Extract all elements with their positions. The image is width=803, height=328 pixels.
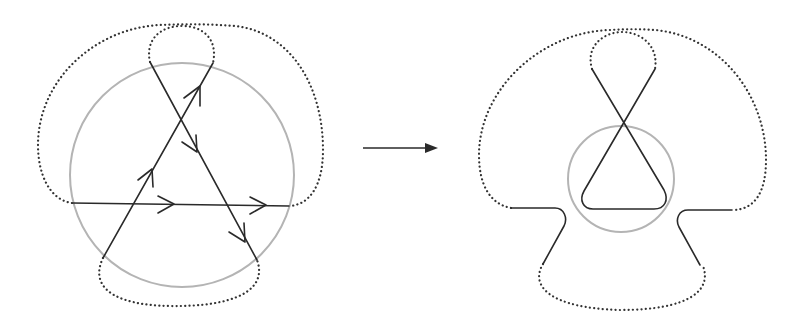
bottom-dotted-loop — [99, 258, 259, 306]
right-hook — [677, 210, 732, 265]
arrowhead-icon — [425, 143, 438, 153]
boundary-circle — [70, 63, 294, 287]
left-panel — [38, 24, 323, 306]
outer-dotted-loop — [38, 24, 323, 206]
top-dotted-loop — [149, 26, 214, 63]
right-panel — [479, 29, 766, 310]
transition-arrow — [363, 143, 438, 153]
crossing-loop — [582, 69, 666, 209]
left-hook — [511, 208, 566, 264]
ascending-chord — [103, 63, 213, 258]
horizontal-chord — [72, 203, 289, 206]
bottom-dotted-loop — [539, 264, 705, 310]
arrow-up-right-icon — [138, 169, 153, 187]
descending-chord — [150, 62, 257, 260]
top-dotted-loop — [591, 32, 656, 69]
diagram-canvas — [0, 0, 803, 328]
